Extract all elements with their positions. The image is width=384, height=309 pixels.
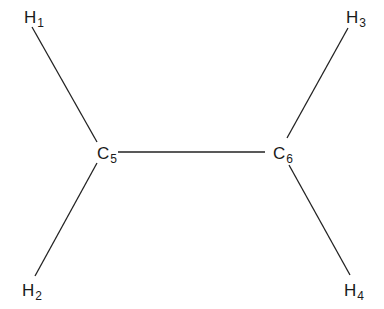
atom-index: 3: [359, 16, 366, 30]
atom-symbol: H: [346, 9, 358, 26]
bond-h3-c6: [287, 28, 348, 138]
atom-symbol: H: [24, 9, 36, 26]
bond-h1-c5: [32, 27, 97, 142]
atom-symbol: H: [344, 282, 356, 299]
molecule-diagram: H1 H2 H3 H4 C5 C6: [0, 0, 384, 309]
atom-index: 5: [110, 152, 117, 166]
bond-h4-c6: [289, 165, 350, 275]
atom-h4: H4: [344, 282, 364, 302]
atom-index: 2: [35, 289, 42, 303]
bond-h2-c5: [35, 163, 97, 276]
atom-c5: C5: [97, 145, 117, 165]
atom-symbol: C: [97, 145, 109, 162]
atom-symbol: C: [273, 145, 285, 162]
atom-index: 1: [37, 16, 44, 30]
atom-h2: H2: [22, 282, 42, 302]
atom-index: 4: [357, 289, 364, 303]
atom-h1: H1: [24, 9, 44, 29]
atom-index: 6: [286, 152, 293, 166]
atom-symbol: H: [22, 282, 34, 299]
bond-lines: [0, 0, 384, 309]
atom-h3: H3: [346, 9, 366, 29]
atom-c6: C6: [273, 145, 293, 165]
